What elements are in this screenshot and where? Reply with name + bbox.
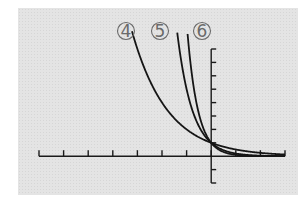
curve-6: [188, 34, 285, 156]
curve-label-4: 4: [118, 21, 135, 41]
curve-5: [177, 33, 285, 156]
svg-text:4: 4: [121, 21, 132, 41]
svg-text:5: 5: [155, 21, 166, 41]
curve-label-5: 5: [152, 21, 169, 41]
curve-4: [132, 31, 285, 154]
graph-plot: 4 5 6: [0, 0, 306, 203]
curves: [132, 31, 285, 156]
svg-text:6: 6: [197, 21, 208, 41]
axes: [39, 49, 285, 183]
curve-label-6: 6: [194, 21, 211, 41]
